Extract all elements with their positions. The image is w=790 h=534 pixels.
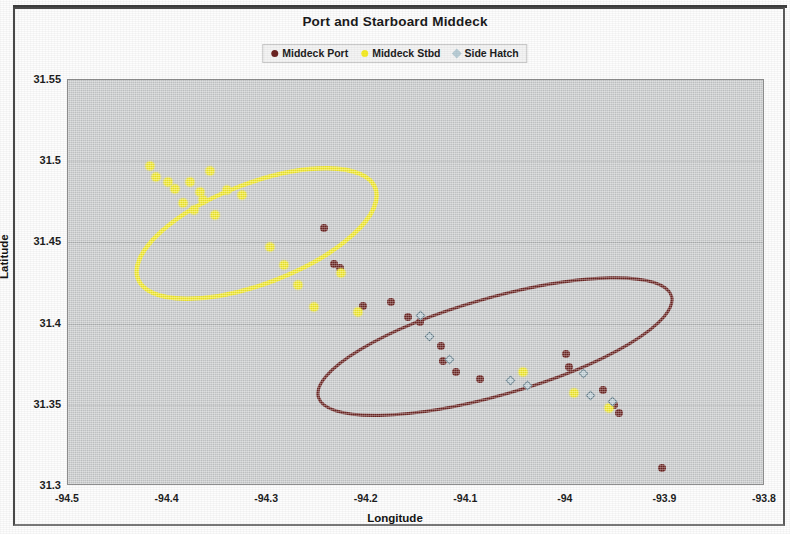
data-point (599, 386, 607, 394)
data-point (615, 409, 623, 417)
x-axis-tick-label: -94.2 (354, 492, 378, 504)
legend-label: Middeck Port (282, 47, 348, 59)
legend-dot-icon (271, 50, 278, 57)
x-axis-tick-label: -94.1 (453, 492, 477, 504)
legend-diamond-icon (452, 48, 462, 58)
data-point (354, 308, 362, 316)
legend-dot-icon (361, 50, 368, 57)
data-point (294, 281, 302, 289)
data-point (171, 185, 179, 193)
plot-area (67, 79, 764, 485)
legend-item: Middeck Stbd (361, 47, 440, 59)
y-axis-tick-label: 31.4 (1, 317, 61, 329)
legend-item: Side Hatch (453, 47, 518, 59)
x-axis-tick-label: -94.5 (55, 492, 79, 504)
x-axis-tick-label: -93.8 (752, 492, 776, 504)
x-axis-label: Longitude (0, 512, 790, 524)
y-axis-tick-label: 31.45 (1, 235, 61, 247)
data-point (146, 162, 154, 170)
y-axis-tick-label: 31.35 (1, 398, 61, 410)
data-point (320, 224, 328, 232)
confidence-ellipse (305, 250, 685, 444)
legend-label: Middeck Stbd (372, 47, 440, 59)
legend-label: Side Hatch (464, 47, 518, 59)
ellipse-overlay (68, 80, 763, 484)
chart-legend: Middeck PortMiddeck StbdSide Hatch (262, 44, 527, 63)
x-axis-tick-label: -93.9 (652, 492, 676, 504)
chart-page: Port and Starboard Middeck Middeck PortM… (0, 0, 790, 534)
chart-title: Port and Starboard Middeck (0, 14, 790, 29)
x-axis-tick-label: -94.4 (155, 492, 179, 504)
data-point (164, 178, 172, 186)
data-point (179, 199, 187, 207)
x-axis-tick-label: -94.3 (254, 492, 278, 504)
y-axis-tick-label: 31.5 (1, 154, 61, 166)
confidence-ellipse (120, 141, 393, 325)
y-axis-tick-label: 31.3 (1, 479, 61, 491)
data-point (476, 375, 484, 383)
x-axis-tick-label: -94 (557, 492, 572, 504)
legend-item: Middeck Port (271, 47, 348, 59)
y-axis-tick-label: 31.55 (1, 73, 61, 85)
data-point (404, 313, 412, 321)
